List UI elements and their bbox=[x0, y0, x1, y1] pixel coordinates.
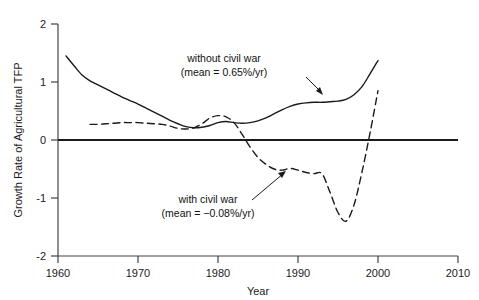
x-tick-label: 1980 bbox=[206, 267, 230, 279]
y-tick-label: -2 bbox=[36, 250, 46, 262]
x-axis-tick-labels: 1960 1970 1980 1990 2000 2010 bbox=[46, 267, 470, 279]
y-axis-tick-labels: 2 1 0 -1 -2 bbox=[36, 18, 46, 262]
annotation-label-line1: with civil war bbox=[178, 193, 238, 205]
x-axis-title: Year bbox=[247, 285, 270, 297]
y-axis-title: Growth Rate of Agricultural TFP bbox=[12, 62, 24, 217]
y-tick-label: 1 bbox=[40, 76, 46, 88]
annotation-without-civil-war: without civil war (mean = 0.65%/yr) bbox=[181, 52, 323, 95]
x-axis-ticks bbox=[58, 256, 458, 263]
x-tick-label: 1960 bbox=[46, 267, 70, 279]
tfp-growth-line-chart: 2 1 0 -1 -2 1960 1970 1980 1990 2000 201… bbox=[0, 0, 479, 300]
chart-container: 2 1 0 -1 -2 1960 1970 1980 1990 2000 201… bbox=[0, 0, 479, 300]
annotation-label-line1: without civil war bbox=[186, 52, 261, 64]
x-tick-label: 1970 bbox=[126, 267, 150, 279]
x-tick-label: 1990 bbox=[286, 267, 310, 279]
annotation-label-line2: (mean = −0.08%/yr) bbox=[162, 207, 255, 219]
y-tick-label: 0 bbox=[40, 134, 46, 146]
annotation-with-civil-war: with civil war (mean = −0.08%/yr) bbox=[162, 171, 286, 219]
y-tick-label: -1 bbox=[36, 192, 46, 204]
x-tick-label: 2010 bbox=[446, 267, 470, 279]
annotation-label-line2: (mean = 0.65%/yr) bbox=[181, 66, 268, 78]
annotation-arrow-line bbox=[252, 173, 284, 200]
y-axis-ticks bbox=[51, 24, 58, 256]
y-tick-label: 2 bbox=[40, 18, 46, 30]
x-tick-label: 2000 bbox=[366, 267, 390, 279]
